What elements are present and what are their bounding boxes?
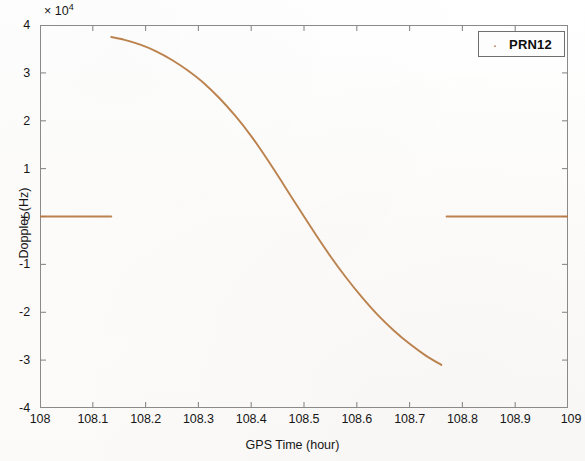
y-tick-label: 3 — [0, 66, 30, 80]
y-tick-label: 2 — [0, 114, 30, 128]
x-tick-label: 108.2 — [130, 412, 161, 426]
x-tick-label: 108.9 — [500, 412, 531, 426]
y-axis-exponent-power: 4 — [69, 2, 74, 12]
y-tick-label: 4 — [0, 18, 30, 32]
y-axis-exponent-prefix: × 10 — [44, 4, 69, 18]
chart-legend[interactable]: · PRN12 — [478, 31, 565, 57]
legend-entry-label: PRN12 — [504, 37, 557, 52]
x-tick-label: 108.1 — [77, 412, 108, 426]
y-tick-label: -2 — [0, 305, 30, 319]
series-segment-doppler-pass — [111, 37, 441, 365]
x-tick-label: 108 — [30, 412, 51, 426]
legend-marker-icon: · — [486, 37, 504, 52]
x-tick-label: 108.4 — [236, 412, 267, 426]
y-tick-label: -4 — [0, 401, 30, 415]
x-tick-label: 108.6 — [341, 412, 372, 426]
x-tick-label: 109 — [561, 412, 582, 426]
x-tick-label: 108.3 — [183, 412, 214, 426]
x-axis-title: GPS Time (hour) — [0, 438, 585, 452]
y-axis-exponent-label: × 104 — [44, 2, 74, 18]
y-tick-label: -3 — [0, 353, 30, 367]
doppler-chart-figure: × 104 — [0, 0, 585, 461]
x-tick-label: 108.8 — [447, 412, 478, 426]
series-prn12 — [40, 37, 568, 365]
x-tick-label: 108.5 — [289, 412, 320, 426]
plot-data-layer — [40, 25, 568, 408]
x-tick-label: 108.7 — [394, 412, 425, 426]
y-axis-title: Doppler (Hz) — [17, 143, 31, 303]
